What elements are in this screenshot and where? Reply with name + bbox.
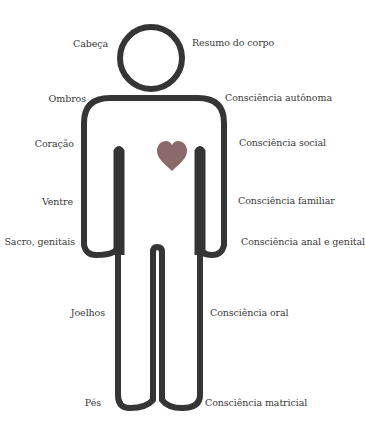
label-oral: Consciência oral bbox=[210, 307, 289, 319]
heart-icon bbox=[157, 141, 187, 171]
label-belly: Ventre bbox=[42, 196, 73, 208]
label-feet: Pés bbox=[85, 397, 101, 409]
label-knees: Joelhos bbox=[71, 307, 105, 319]
head-circle bbox=[120, 27, 182, 89]
label-shoulders: Ombros bbox=[49, 93, 86, 105]
label-heart: Coração bbox=[35, 138, 74, 150]
label-matrix: Consciência matricial bbox=[205, 397, 307, 409]
label-head: Cabeça bbox=[73, 38, 108, 50]
label-sacrum: Sacro, genitais bbox=[4, 236, 75, 248]
label-social: Consciência social bbox=[239, 137, 326, 149]
label-body-summary: Resumo do corpo bbox=[192, 37, 274, 49]
label-autonomous: Consciência autônoma bbox=[225, 92, 332, 104]
label-anal-genital: Consciência anal e genital bbox=[241, 236, 365, 248]
label-familial: Consciência familiar bbox=[238, 195, 335, 207]
